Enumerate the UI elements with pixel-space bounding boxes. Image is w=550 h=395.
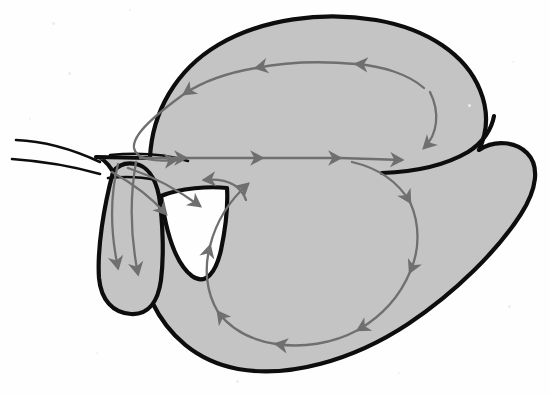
figure-canvas — [0, 0, 550, 395]
left-lower-lobe — [99, 163, 163, 314]
whisker-upper — [16, 140, 100, 162]
whisker-lower — [12, 159, 100, 174]
anatomical-diagram — [0, 0, 550, 395]
body-silhouette-group — [12, 16, 535, 371]
